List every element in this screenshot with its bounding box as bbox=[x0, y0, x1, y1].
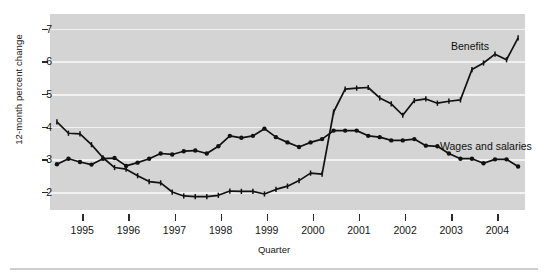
x-tick-label: 2002 bbox=[384, 224, 426, 236]
x-tick-label: 1998 bbox=[200, 224, 242, 236]
x-tick-mark bbox=[359, 214, 360, 221]
x-tick-label: 2003 bbox=[430, 224, 472, 236]
gridline bbox=[50, 94, 525, 96]
y-tick-label: 6 bbox=[28, 56, 52, 66]
x-tick-label: 1997 bbox=[154, 224, 196, 236]
gridline bbox=[50, 127, 525, 129]
x-tick-mark bbox=[451, 214, 452, 221]
x-tick-mark bbox=[175, 214, 176, 221]
footer-rule bbox=[10, 268, 538, 270]
x-tick-mark bbox=[497, 214, 498, 221]
x-tick-mark bbox=[128, 214, 129, 221]
x-tick-mark bbox=[82, 214, 83, 221]
gridline bbox=[50, 192, 525, 194]
y-tick-label: 4 bbox=[28, 122, 52, 132]
series-label-wages: Wages and salaries bbox=[440, 140, 532, 152]
y-tick-label: 7 bbox=[28, 24, 52, 34]
gridline bbox=[50, 61, 525, 63]
x-tick-label: 2004 bbox=[476, 224, 518, 236]
y-tick-label: 3 bbox=[28, 154, 52, 164]
series-label-benefits: Benefits bbox=[451, 40, 489, 52]
x-tick-label: 1999 bbox=[246, 224, 288, 236]
y-tick-label: 5 bbox=[28, 89, 52, 99]
x-tick-label: 1995 bbox=[61, 224, 103, 236]
gridline bbox=[50, 29, 525, 31]
y-axis-label: 12-month percent change bbox=[13, 10, 24, 170]
x-tick-mark bbox=[405, 214, 406, 221]
x-tick-mark bbox=[267, 214, 268, 221]
x-tick-label: 1996 bbox=[107, 224, 149, 236]
x-tick-label: 2000 bbox=[292, 224, 334, 236]
x-tick-label: 2001 bbox=[338, 224, 380, 236]
x-tick-mark bbox=[221, 214, 222, 221]
chart-figure: 12-month percent change Quarter Benefits… bbox=[0, 0, 548, 277]
y-tick-label: 2 bbox=[28, 187, 52, 197]
gridline bbox=[50, 159, 525, 161]
x-tick-mark bbox=[313, 214, 314, 221]
x-axis-label: Quarter bbox=[0, 244, 548, 255]
